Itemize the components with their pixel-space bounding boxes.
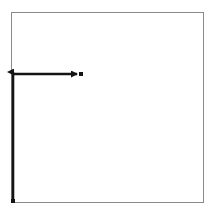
diagram-svg [0,0,211,212]
terminal-point-dot [79,72,83,76]
origin-point-dot [11,199,15,203]
diagram-canvas [0,0,211,212]
bounding-box-frame [12,13,204,203]
